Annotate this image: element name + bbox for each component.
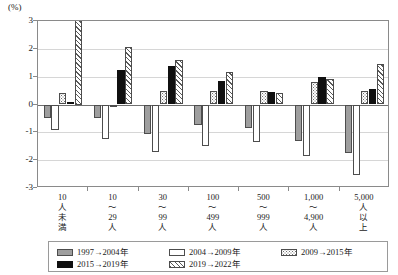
bar — [168, 66, 175, 105]
legend-swatch-icon — [57, 261, 73, 268]
bar — [125, 47, 132, 104]
bar — [326, 79, 333, 104]
bar — [202, 105, 209, 147]
bar — [218, 81, 225, 105]
bar — [353, 105, 360, 176]
bars-layer — [38, 21, 388, 186]
bar — [226, 72, 233, 104]
bar — [260, 91, 267, 105]
legend-item: 1997→2004年 — [57, 247, 129, 257]
x-axis-tick-label: 5,000 人 以 上 — [339, 192, 389, 232]
bar — [276, 93, 283, 104]
legend-item: 2004→2009年 — [169, 247, 241, 257]
bar-group — [38, 21, 88, 186]
legend-label: 2009→2015年 — [301, 247, 353, 257]
bar — [51, 105, 58, 130]
y-axis-unit-label: (%) — [8, 2, 22, 12]
bar — [194, 105, 201, 126]
legend-item: 2015→2019年 — [57, 259, 129, 269]
x-axis-tick-label: 30 〜 99 人 — [138, 192, 188, 232]
y-axis-tick-label: -3 — [3, 183, 33, 192]
bar — [318, 77, 325, 105]
bar — [210, 91, 217, 105]
bar — [175, 60, 182, 105]
legend-label: 1997→2004年 — [77, 247, 129, 257]
x-axis-tick-mark — [87, 187, 88, 191]
bar — [110, 105, 117, 107]
y-axis-tick-label: 2 — [3, 44, 33, 53]
bar — [245, 105, 252, 129]
x-axis-tick-label: 500 〜 999 人 — [238, 192, 288, 232]
y-axis-tick-label: 1 — [3, 72, 33, 81]
bar-group — [239, 21, 289, 186]
x-axis-tick-label: 10 人 未 満 — [37, 192, 87, 232]
x-axis-tick-mark — [288, 187, 289, 191]
x-axis-tick-label: 100 〜 499 人 — [188, 192, 238, 232]
legend-label: 2019→2022年 — [189, 259, 241, 269]
x-axis-tick-label: 1,000 〜 4,900 人 — [288, 192, 338, 232]
bar — [253, 105, 260, 143]
bar — [295, 105, 302, 141]
bar — [59, 93, 66, 104]
bar — [361, 91, 368, 105]
x-axis-tick-labels: 10 人 未 満10 〜 29 人30 〜 99 人100 〜 499 人500… — [37, 192, 389, 238]
y-axis-tick-label: 0 — [3, 100, 33, 109]
bar-group — [88, 21, 138, 186]
legend-item: 2009→2015年 — [281, 247, 353, 257]
x-axis-tick-mark — [339, 187, 340, 191]
bar — [268, 92, 275, 105]
legend-label: 2015→2019年 — [77, 259, 129, 269]
bar — [44, 105, 51, 119]
chart-container: (%) 3210-1-2-3 10 人 未 満10 〜 29 人30 〜 99 … — [0, 0, 398, 275]
legend-swatch-icon — [57, 249, 73, 256]
x-axis-tick-mark — [238, 187, 239, 191]
bar — [102, 105, 109, 140]
bar — [144, 105, 151, 134]
bar — [160, 91, 167, 105]
bar — [117, 70, 124, 105]
y-axis-tick-labels: 3210-1-2-3 — [0, 20, 33, 187]
x-axis-tick-mark — [188, 187, 189, 191]
y-axis-tick-label: -1 — [3, 127, 33, 136]
legend-label: 2004→2009年 — [189, 247, 241, 257]
y-axis-tick-label: 3 — [3, 16, 33, 25]
bar — [75, 21, 82, 105]
bar — [345, 105, 352, 154]
legend-swatch-icon — [281, 249, 297, 256]
bar — [311, 82, 318, 104]
bar — [152, 105, 159, 152]
bar — [303, 105, 310, 156]
legend-item: 2019→2022年 — [169, 259, 241, 269]
x-axis-tick-label: 10 〜 29 人 — [87, 192, 137, 232]
plot-area — [37, 20, 389, 187]
bar — [67, 102, 74, 105]
bar-group — [139, 21, 189, 186]
legend-swatch-icon — [169, 261, 185, 268]
bar — [377, 64, 384, 104]
legend-swatch-icon — [169, 249, 185, 256]
bar-group — [340, 21, 388, 186]
y-axis-tick-mark — [33, 187, 37, 188]
y-axis-tick-label: -2 — [3, 155, 33, 164]
x-axis-tick-mark — [138, 187, 139, 191]
bar — [369, 89, 376, 104]
bar — [94, 105, 101, 119]
bar-group — [289, 21, 339, 186]
bar-group — [189, 21, 239, 186]
chart-legend: 1997→2004年2004→2009年2009→2015年2015→2019年… — [48, 241, 388, 272]
